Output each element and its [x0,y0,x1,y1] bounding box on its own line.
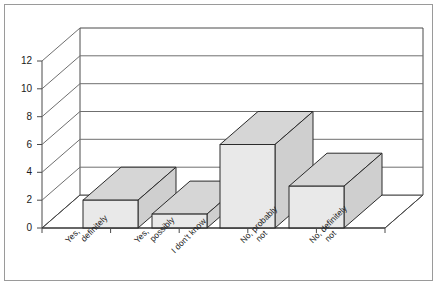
ytick-label-10: 10 [8,84,32,94]
bar-chart-plot [0,0,439,291]
ytick-label-2: 2 [8,195,32,205]
ytick-label-0: 0 [8,223,32,233]
gridline-4-depth [42,139,80,172]
ytick-label-8: 8 [8,112,32,122]
ytick-label-4: 4 [8,167,32,177]
gridline-10-depth [42,56,80,89]
ytick-label-12: 12 [8,56,32,66]
gridline-12-depth [42,28,80,61]
gridline-8-depth [42,84,80,117]
page-caption-clipped [14,285,426,291]
chart-figure: 0 2 4 6 8 10 12 Yes, definitely Yes, pos… [0,0,439,291]
gridline-6-depth [42,112,80,145]
gridline-2-depth [42,167,80,200]
ytick-label-6: 6 [8,140,32,150]
